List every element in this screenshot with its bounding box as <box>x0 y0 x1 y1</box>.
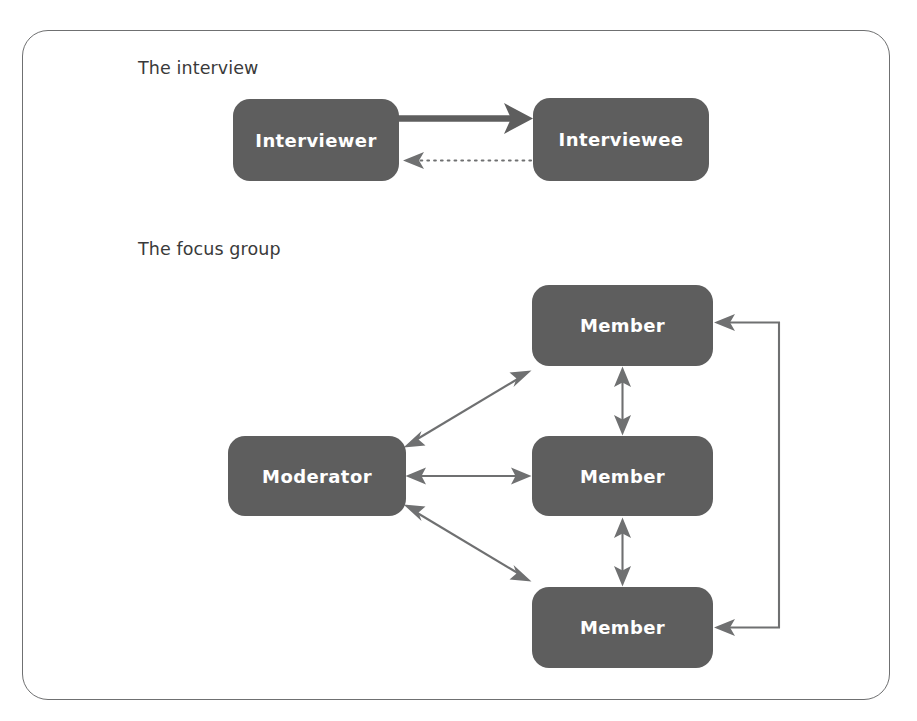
figure-root: The interview The focus group <box>0 0 917 721</box>
node-member-middle-label: Member <box>580 466 665 487</box>
node-interviewee-label: Interviewee <box>559 129 684 150</box>
section-title-interview: The interview <box>138 58 259 78</box>
node-interviewer[interactable]: Interviewer <box>233 99 399 181</box>
node-member-middle[interactable]: Member <box>532 436 713 516</box>
section-title-focus-group: The focus group <box>138 239 281 259</box>
node-moderator[interactable]: Moderator <box>228 436 406 516</box>
figure-outer-border <box>22 30 890 700</box>
node-moderator-label: Moderator <box>262 466 372 487</box>
node-member-top[interactable]: Member <box>532 285 713 366</box>
node-member-bottom-label: Member <box>580 617 665 638</box>
node-member-top-label: Member <box>580 315 665 336</box>
node-interviewee[interactable]: Interviewee <box>533 98 709 181</box>
node-member-bottom[interactable]: Member <box>532 587 713 668</box>
node-interviewer-label: Interviewer <box>255 130 376 151</box>
